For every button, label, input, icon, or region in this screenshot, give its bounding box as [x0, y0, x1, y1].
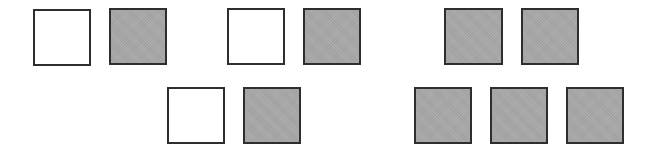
gray-square-r2-2	[243, 87, 301, 144]
gray-square-r2-4	[490, 87, 548, 144]
gray-square-r1-5	[444, 8, 503, 65]
gray-square-r1-6	[521, 8, 579, 65]
white-square-r2-1	[167, 87, 225, 144]
white-square-r1-3	[227, 8, 285, 65]
gray-square-r2-5	[566, 87, 624, 144]
gray-square-r2-3	[414, 87, 472, 144]
gray-square-r1-4	[303, 8, 361, 65]
white-square-r1-1	[33, 9, 91, 66]
gray-square-r1-2	[109, 8, 167, 65]
